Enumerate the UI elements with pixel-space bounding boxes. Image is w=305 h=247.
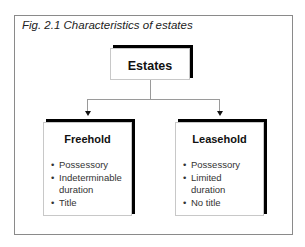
list-item: Limited duration — [183, 172, 241, 197]
list-item: No title — [183, 197, 241, 210]
figure-title: Fig. 2.1 Characteristics of estates — [22, 19, 193, 31]
list-item: Title — [51, 197, 137, 210]
list-item: Indeterminable duration — [51, 172, 137, 197]
arrow-down-icon — [217, 111, 223, 116]
connector-left-down — [87, 99, 88, 111]
connector-right-down — [219, 99, 220, 111]
freehold-node: Freehold Possessory Indeterminable durat… — [43, 122, 132, 216]
leasehold-node: Leasehold Possessory Limited duration No… — [175, 122, 264, 216]
arrow-down-icon — [85, 111, 91, 116]
connector-horizontal — [87, 99, 220, 100]
root-node-label: Estates — [111, 59, 189, 73]
leasehold-characteristics: Possessory Limited duration No title — [183, 159, 241, 209]
leasehold-label: Leasehold — [176, 133, 263, 145]
connector-root-down — [150, 80, 151, 99]
freehold-characteristics: Possessory Indeterminable duration Title — [51, 159, 137, 209]
list-item: Possessory — [51, 159, 137, 172]
list-item: Possessory — [183, 159, 241, 172]
root-node: Estates — [110, 48, 190, 80]
freehold-label: Freehold — [44, 133, 131, 145]
